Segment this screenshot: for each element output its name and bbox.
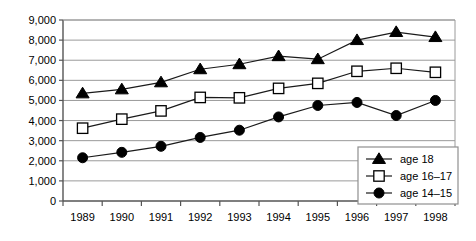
- x-tick-label: 1993: [227, 212, 251, 223]
- x-tick-label: 1994: [266, 212, 290, 223]
- x-tick-label: 1989: [70, 212, 94, 223]
- x-tick-label: 1991: [149, 212, 173, 223]
- line-chart: 9,0008,0007,0006,0005,0004,0003,0002,000…: [0, 0, 476, 241]
- x-tick-label: 1997: [384, 212, 408, 223]
- x-tick-label: 1995: [306, 212, 330, 223]
- x-tick-label: 1996: [345, 212, 369, 223]
- x-tick-label: 1990: [110, 212, 134, 223]
- x-tick-label: 1998: [423, 212, 447, 223]
- x-axis-tick-labels: 1989199019911992199319941995199619971998: [0, 0, 476, 241]
- x-tick-label: 1992: [188, 212, 212, 223]
